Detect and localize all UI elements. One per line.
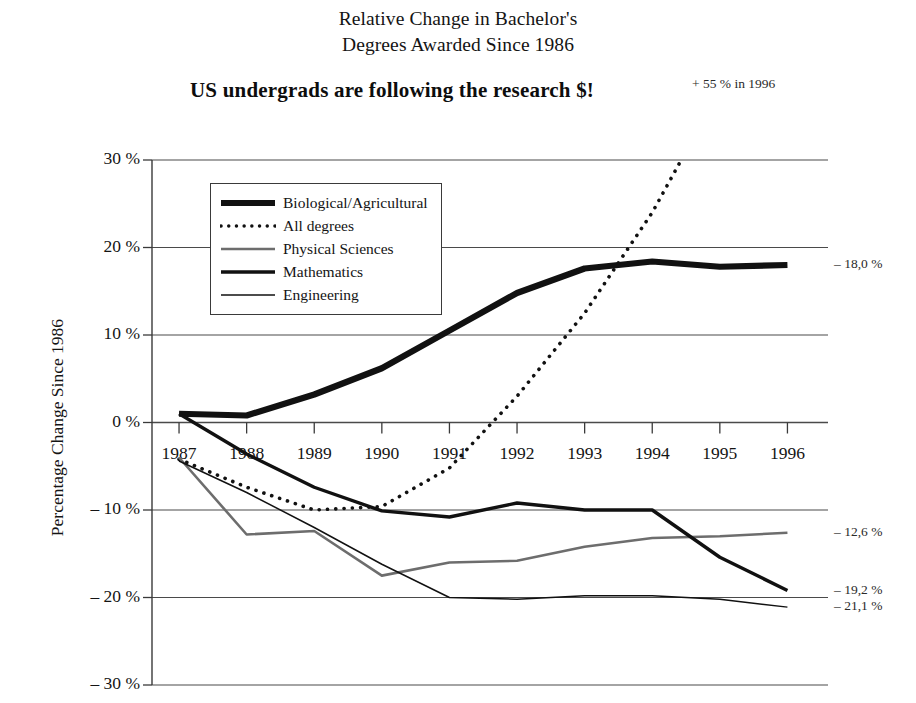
y-axis-tick-label: 0 % <box>44 411 140 432</box>
legend-item-label: Engineering <box>283 286 359 304</box>
legend-item-label: All degrees <box>283 217 354 235</box>
series-end-label: – 19,2 % <box>834 582 882 598</box>
y-axis-tick-label: 10 % <box>44 323 140 344</box>
figure-title-line-1: Relative Change in Bachelor's <box>0 6 916 32</box>
legend-item[interactable]: All degrees <box>220 214 433 237</box>
series-end-labels: – 18,0 %– 12,6 %– 19,2 %– 21,1 % <box>834 160 916 685</box>
legend-item[interactable]: Physical Sciences <box>220 237 433 260</box>
legend-line-icon <box>220 196 276 210</box>
legend-line-icon <box>220 288 276 302</box>
legend-line-icon <box>220 219 276 233</box>
series-end-label: – 12,6 % <box>834 524 882 540</box>
y-axis-tick-label: – 30 % <box>44 673 140 694</box>
series-line <box>179 458 787 576</box>
figure-title: Relative Change in Bachelor's Degrees Aw… <box>0 6 916 58</box>
y-axis-tick-label: – 20 % <box>44 586 140 607</box>
chart-headline: US undergrads are following the research… <box>112 78 672 103</box>
legend-item[interactable]: Biological/Agricultural <box>220 191 433 214</box>
figure-title-line-2: Degrees Awarded Since 1986 <box>0 32 916 58</box>
series-end-label: – 18,0 % <box>834 256 882 272</box>
legend-item-label: Biological/Agricultural <box>283 194 428 212</box>
legend-item[interactable]: Mathematics <box>220 260 433 283</box>
legend-item[interactable]: Engineering <box>220 283 433 306</box>
legend-line-icon <box>220 265 276 279</box>
y-axis-tick-labels: 30 %20 %10 %0 %– 10 %– 20 %– 30 % <box>36 160 140 685</box>
peak-annotation: + 55 % in 1996 <box>692 76 775 92</box>
legend-line-icon <box>220 242 276 256</box>
series-end-label: – 21,1 % <box>834 598 882 614</box>
legend-item-label: Physical Sciences <box>283 240 394 258</box>
chart-legend: Biological/AgriculturalAll degreesPhysic… <box>210 183 442 315</box>
y-axis-tick-label: – 10 % <box>44 498 140 519</box>
y-axis-tick-label: 20 % <box>44 236 140 257</box>
y-axis-ticks <box>143 160 152 685</box>
legend-item-label: Mathematics <box>283 263 363 281</box>
y-axis-tick-label: 30 % <box>44 148 140 169</box>
series-line <box>179 414 787 591</box>
